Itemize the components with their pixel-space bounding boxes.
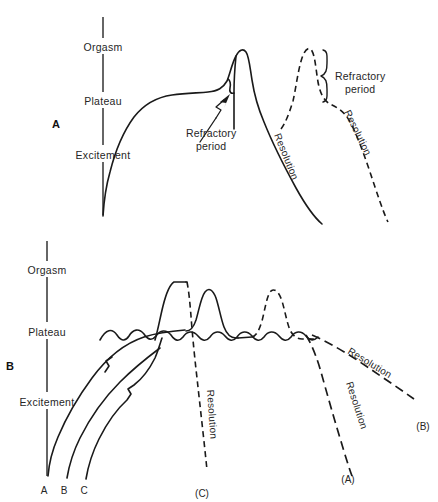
panel-a-brace-label-line1: Refractory <box>335 70 386 82</box>
panel-a-brace-label-line2: period <box>345 83 375 95</box>
panel-a-refractory-label-line1: Refractory <box>186 127 237 139</box>
panel-a-refractory-label-line2: period <box>196 140 226 152</box>
panel-b-end-label-a: (A) <box>341 474 354 485</box>
panel-b-end-label-c: (C) <box>195 488 209 499</box>
panel-b-start-label-c: C <box>80 485 87 496</box>
panel-b-axis-label-orgasm: Orgasm <box>27 264 66 276</box>
panel-a-axis-label-plateau: Plateau <box>84 95 122 107</box>
panel-b-axis-label-plateau: Plateau <box>28 326 66 338</box>
panel-a-label: A <box>52 118 60 130</box>
sexual-response-cycle-figure: Orgasm Plateau Excitement A Refractory p… <box>0 0 438 502</box>
panel-b-start-label-b: B <box>61 485 68 496</box>
panel-b-label: B <box>6 360 14 372</box>
panel-b-start-label-a: A <box>41 485 48 496</box>
panel-b-end-label-b: (B) <box>416 421 429 432</box>
panel-a-axis-label-orgasm: Orgasm <box>83 41 122 53</box>
panel-b-axis-label-excitement: Excitement <box>20 396 75 408</box>
panel-a-axis-label-excitement: Excitement <box>76 149 131 161</box>
panel-b-post-a-plateau <box>238 337 252 338</box>
